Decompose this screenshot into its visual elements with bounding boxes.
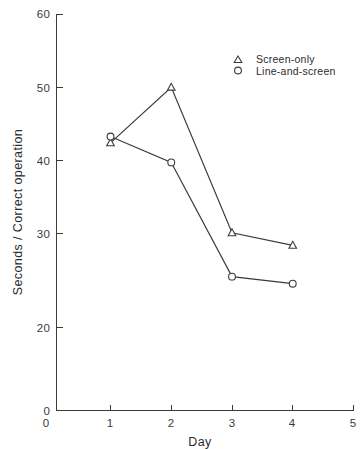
legend-circle-marker-icon bbox=[235, 67, 242, 74]
data-point-marker bbox=[167, 83, 175, 90]
data-point-marker bbox=[228, 229, 236, 236]
chart-legend: Screen-only Line-and-screen bbox=[234, 53, 335, 77]
series-line-screen-only bbox=[111, 87, 293, 245]
x-tick-label-0: 0 bbox=[43, 417, 50, 429]
y-tick-label-60: 60 bbox=[37, 8, 50, 20]
data-point-marker bbox=[289, 280, 296, 287]
y-axis-title: Seconds / Correct operation bbox=[11, 129, 25, 295]
y-tick-label-30: 30 bbox=[37, 228, 50, 240]
series-markers-line-and-screen bbox=[107, 133, 296, 287]
x-tick-label-4: 4 bbox=[289, 417, 296, 429]
data-point-marker bbox=[229, 273, 236, 280]
data-point-marker bbox=[107, 133, 114, 140]
y-tick-label-20: 20 bbox=[37, 322, 50, 334]
x-tick-label-2: 2 bbox=[168, 417, 175, 429]
chart-figure: 60 50 40 30 20 0 0 1 2 3 4 5 Seconds / C… bbox=[0, 0, 364, 449]
line-chart-plot: 60 50 40 30 20 0 0 1 2 3 4 5 Seconds / C… bbox=[0, 0, 364, 449]
y-tick-label-0: 0 bbox=[43, 405, 50, 417]
data-point-marker bbox=[168, 159, 175, 166]
x-axis-title: Day bbox=[188, 435, 212, 449]
legend-label-line-and-screen: Line-and-screen bbox=[256, 65, 336, 77]
legend-triangle-marker-icon bbox=[234, 56, 242, 63]
y-tick-label-50: 50 bbox=[37, 82, 50, 94]
x-tick-label-5: 5 bbox=[350, 417, 357, 429]
y-tick-label-40: 40 bbox=[37, 155, 50, 167]
x-tick-label-1: 1 bbox=[107, 417, 114, 429]
series-markers-screen-only bbox=[107, 83, 297, 248]
legend-label-screen-only: Screen-only bbox=[256, 53, 315, 65]
x-tick-label-3: 3 bbox=[229, 417, 236, 429]
